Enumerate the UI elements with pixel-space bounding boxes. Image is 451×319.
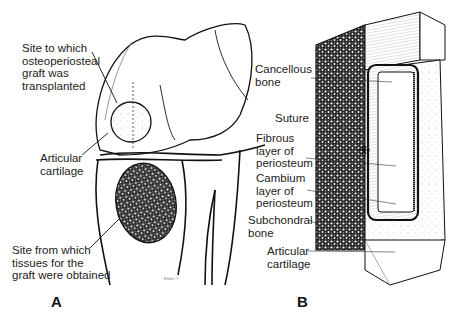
label-cambium-layer: Cambium layer of periosteum xyxy=(256,172,313,210)
label-articular-cartilage-a: Articular cartilage xyxy=(40,152,83,177)
donor-site xyxy=(110,158,183,247)
graft-block xyxy=(316,12,445,285)
label-subchondral-bone: Subchondral bone xyxy=(248,214,313,239)
label-graft-site: Site to which osteoperiosteal graft was … xyxy=(22,42,100,92)
label-articular-cartilage-b: Articular cartilage xyxy=(267,245,310,270)
panel-letter-b: B xyxy=(297,293,308,310)
graft-site-circle xyxy=(111,102,151,142)
artist-signature: Ehlert © xyxy=(164,276,179,281)
label-cancellous-bone: Cancellous bone xyxy=(255,63,312,88)
label-suture: Suture xyxy=(275,112,309,125)
label-donor-site: Site from which tissues for the graft we… xyxy=(12,244,110,282)
label-fibrous-layer: Fibrous layer of periosteum xyxy=(256,132,313,170)
panel-letter-a: A xyxy=(51,293,62,310)
